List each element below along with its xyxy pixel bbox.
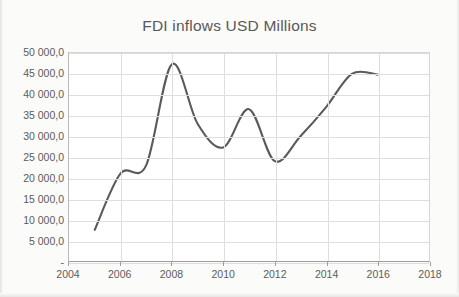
gridline-horizontal	[69, 53, 429, 54]
y-axis-tick-label: 30 000,0	[2, 130, 64, 142]
y-axis-tick-label: 10 000,0	[2, 214, 64, 226]
gridline-horizontal	[69, 242, 429, 243]
x-axis-tick	[171, 262, 172, 266]
y-axis-tick-label: 40 000,0	[2, 88, 64, 100]
x-axis-ticks	[0, 262, 459, 267]
gridline-horizontal	[69, 137, 429, 138]
x-axis-tick	[430, 262, 431, 266]
line-series-path	[95, 64, 378, 230]
x-axis-tick	[327, 262, 328, 266]
y-axis-tick-label: 50 000,0	[2, 46, 64, 58]
y-axis-tick-label: 5 000,0	[2, 235, 64, 247]
x-axis-tick	[275, 262, 276, 266]
x-axis-tick-label: 2004	[43, 268, 93, 280]
x-axis-tick-label: 2006	[95, 268, 145, 280]
gridline-vertical	[172, 53, 173, 261]
x-axis-tick-label: 2018	[405, 268, 455, 280]
x-axis-tick-label: 2008	[146, 268, 196, 280]
x-axis-tick-label: 2012	[250, 268, 300, 280]
gridline-horizontal	[69, 221, 429, 222]
y-axis-tick-label: 35 000,0	[2, 109, 64, 121]
chart-screenshot: FDI inflows USD Millions 50 000,045 000,…	[0, 0, 459, 297]
gridline-horizontal	[69, 95, 429, 96]
plot-area	[68, 52, 430, 262]
x-axis-tick	[120, 262, 121, 266]
y-axis-tick-label: 15 000,0	[2, 193, 64, 205]
gridline-horizontal	[69, 158, 429, 159]
x-axis-tick	[223, 262, 224, 266]
chart-container: FDI inflows USD Millions 50 000,045 000,…	[0, 0, 459, 293]
gridline-horizontal	[69, 179, 429, 180]
y-axis-tick-label: 45 000,0	[2, 67, 64, 79]
x-axis-tick-label: 2016	[353, 268, 403, 280]
gridline-vertical	[121, 53, 122, 261]
y-axis-tick-label: 20 000,0	[2, 172, 64, 184]
gridline-horizontal	[69, 74, 429, 75]
y-axis-tick-label: 25 000,0	[2, 151, 64, 163]
y-axis-labels: 50 000,045 000,040 000,035 000,030 000,0…	[0, 0, 64, 297]
gridline-horizontal	[69, 116, 429, 117]
gridline-vertical	[224, 53, 225, 261]
gridline-horizontal	[69, 200, 429, 201]
page-edge-bottom	[0, 293, 459, 297]
gridline-vertical	[276, 53, 277, 261]
x-axis-tick	[378, 262, 379, 266]
gridline-vertical	[379, 53, 380, 261]
x-axis-tick-label: 2010	[198, 268, 248, 280]
x-axis-tick	[68, 262, 69, 266]
x-axis-labels: 20042006200820102012201420162018	[0, 268, 459, 288]
chart-title: FDI inflows USD Millions	[0, 17, 459, 35]
line-series	[69, 53, 429, 261]
gridline-vertical	[328, 53, 329, 261]
x-axis-tick-label: 2014	[302, 268, 352, 280]
